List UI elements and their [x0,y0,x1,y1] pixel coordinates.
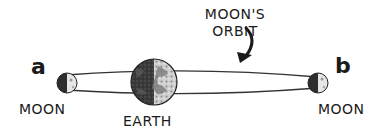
earth-icon [131,59,177,105]
moon-b-label: MOON [318,102,365,116]
orbit-path [66,71,318,94]
orbit-caption-line1: MOON'S [190,6,280,23]
orbit-caption: MOON'S ORBIT [190,6,280,40]
moon-orbit-diagram: MOON'S ORBIT a b MOON EARTH MOON [0,0,388,132]
orbit-caption-line2: ORBIT [190,23,280,40]
earth-label: EARTH [123,114,172,128]
moon-b-icon [308,73,328,93]
moon-a-icon [57,73,77,93]
position-b-label: b [335,55,351,77]
position-a-label: a [31,56,46,78]
moon-a-label: MOON [19,102,66,116]
